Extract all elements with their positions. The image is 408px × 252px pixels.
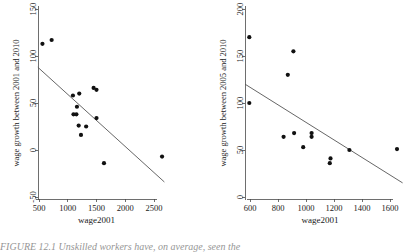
data-point bbox=[40, 42, 44, 46]
data-point bbox=[247, 101, 251, 105]
y-axis-title: wage growth between 2001 and 2010 bbox=[11, 39, 21, 166]
data-point bbox=[77, 92, 81, 96]
data-point bbox=[310, 131, 314, 135]
data-point bbox=[328, 161, 332, 165]
data-point bbox=[247, 35, 251, 39]
x-tick-label: 1600 bbox=[382, 203, 399, 213]
y-axis-title: wage growth between 2005 and 2010 bbox=[218, 39, 228, 166]
y-tick-label: 150 bbox=[28, 3, 38, 16]
y-tick-label: 200 bbox=[235, 3, 245, 16]
figure-caption: FIGURE 12.1 Unskilled workers have, on a… bbox=[0, 241, 408, 252]
x-tick-label: 1000 bbox=[298, 203, 315, 213]
data-point bbox=[395, 147, 399, 151]
x-tick-label: 1400 bbox=[354, 203, 371, 213]
scatter-panel-left: -500501001505001000150020002500wage2001w… bbox=[0, 0, 204, 250]
regression-line bbox=[38, 67, 165, 182]
data-point bbox=[94, 116, 98, 120]
y-tick-label: -50 bbox=[28, 191, 38, 202]
data-point bbox=[282, 135, 286, 139]
data-point bbox=[347, 148, 351, 152]
y-tick-label: 100 bbox=[235, 97, 245, 110]
data-point bbox=[310, 135, 314, 139]
x-tick-label: 1200 bbox=[326, 203, 343, 213]
data-point bbox=[77, 123, 81, 127]
x-axis-title: wage2001 bbox=[302, 215, 339, 225]
y-tick-label: 100 bbox=[28, 50, 38, 63]
x-tick-label: 1000 bbox=[59, 203, 76, 213]
data-point bbox=[79, 133, 83, 137]
scatter-panel-right: 0501001502006008001000120014001600wage20… bbox=[204, 0, 408, 250]
data-point bbox=[94, 88, 98, 92]
y-tick-label: 50 bbox=[28, 99, 38, 108]
x-tick-label: 2500 bbox=[146, 203, 163, 213]
data-point bbox=[102, 161, 106, 165]
data-point bbox=[160, 154, 164, 158]
data-point bbox=[286, 73, 290, 77]
x-tick-label: 2000 bbox=[117, 203, 134, 213]
data-point bbox=[301, 145, 305, 149]
y-tick-label: 50 bbox=[235, 146, 245, 155]
data-point bbox=[291, 49, 295, 53]
regression-line bbox=[245, 84, 403, 183]
data-point bbox=[84, 124, 88, 128]
y-tick-label: 0 bbox=[28, 148, 38, 152]
scatter-plot-left: -500501001505001000150020002500wage2001w… bbox=[0, 0, 204, 250]
x-tick-label: 1500 bbox=[88, 203, 105, 213]
x-axis-title: wage2001 bbox=[78, 215, 115, 225]
data-point bbox=[292, 131, 296, 135]
y-tick-label: 150 bbox=[235, 50, 245, 63]
data-point bbox=[50, 38, 54, 42]
data-point bbox=[328, 156, 332, 160]
y-tick-label: 0 bbox=[235, 195, 245, 199]
x-tick-label: 500 bbox=[33, 203, 46, 213]
x-tick-label: 800 bbox=[272, 203, 285, 213]
x-tick-label: 600 bbox=[244, 203, 257, 213]
data-point bbox=[75, 105, 79, 109]
scatter-plot-right: 0501001502006008001000120014001600wage20… bbox=[204, 0, 408, 250]
data-point bbox=[71, 93, 75, 97]
data-point bbox=[74, 112, 78, 116]
